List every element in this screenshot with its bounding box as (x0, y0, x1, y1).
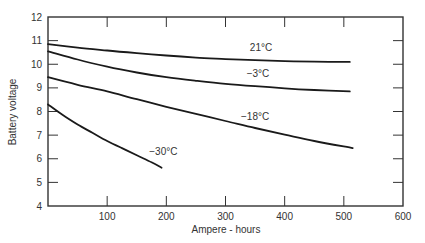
series-label: 21°C (250, 42, 272, 53)
y-tick-label: 10 (31, 59, 43, 70)
chart-canvas: 456789101112100200300400500600 21°C−3°C−… (0, 0, 425, 243)
series-curve (48, 77, 353, 148)
y-tick-label: 6 (36, 153, 42, 164)
plot-frame (48, 17, 403, 206)
y-tick-label: 11 (32, 35, 43, 46)
x-tick-label: 400 (276, 211, 293, 222)
y-tick-label: 5 (36, 177, 42, 188)
plot-border (48, 17, 403, 206)
series-curve (48, 44, 350, 62)
tick-labels: 456789101112100200300400500600 (31, 12, 412, 223)
series-label: −3°C (247, 68, 270, 79)
x-tick-label: 600 (395, 211, 412, 222)
x-tick-label: 500 (335, 211, 352, 222)
series-curve (48, 104, 162, 167)
x-tick-label: 100 (99, 211, 116, 222)
x-tick-label: 200 (158, 211, 175, 222)
y-tick-label: 4 (36, 201, 42, 212)
x-axis-title: Ampere - hours (192, 224, 261, 235)
y-tick-label: 8 (36, 106, 42, 117)
x-tick-label: 300 (217, 211, 234, 222)
y-tick-label: 12 (31, 12, 43, 23)
series-label: −18°C (241, 111, 269, 122)
series-label: −30°C (149, 146, 177, 157)
battery-voltage-chart: 456789101112100200300400500600 21°C−3°C−… (0, 0, 425, 243)
y-tick-label: 9 (36, 82, 42, 93)
y-tick-label: 7 (36, 130, 42, 141)
y-axis-title: Battery voltage (7, 78, 18, 145)
data-curves (48, 44, 353, 168)
axis-ticks (48, 17, 403, 206)
